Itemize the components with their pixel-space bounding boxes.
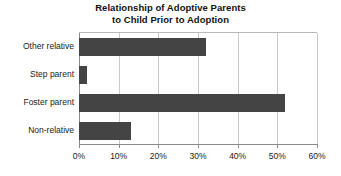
x-tick-50% [277,144,278,148]
y-axis-category-labels: Other relativeStep parentFoster parentNo… [0,32,74,144]
bar-chart: Relationship of Adoptive Parents to Chil… [0,0,341,176]
x-tick-label-40%: 40% [218,151,258,161]
x-tick-label-50%: 50% [257,151,297,161]
x-tick-label-30%: 30% [178,151,218,161]
gridline-60% [317,33,318,144]
bar-foster-parent [79,94,285,112]
y-axis-label-foster-parent: Foster parent [0,88,74,116]
bar-row [79,89,317,117]
x-tick-label-60%: 60% [297,151,337,161]
bar-row [79,117,317,145]
bars-layer [79,33,317,144]
y-axis-label-step-parent: Step parent [0,60,74,88]
x-tick-0% [79,144,80,148]
x-tick-label-0%: 0% [59,151,99,161]
x-tick-40% [238,144,239,148]
y-axis-label-other-relative: Other relative [0,32,74,60]
plot-area [79,32,317,144]
x-tick-30% [198,144,199,148]
y-axis-label-non-relative: Non-relative [0,116,74,144]
bar-step-parent [79,66,87,84]
chart-title-line-2: to Child Prior to Adoption [0,14,341,26]
x-tick-60% [317,144,318,148]
bar-non-relative [79,122,131,140]
x-tick-20% [158,144,159,148]
bar-row [79,33,317,61]
x-tick-label-20%: 20% [138,151,178,161]
chart-title: Relationship of Adoptive Parents to Chil… [0,2,341,26]
bar-other-relative [79,38,206,56]
bar-row [79,61,317,89]
x-tick-10% [119,144,120,148]
chart-title-line-1: Relationship of Adoptive Parents [0,2,341,14]
x-tick-label-10%: 10% [99,151,139,161]
